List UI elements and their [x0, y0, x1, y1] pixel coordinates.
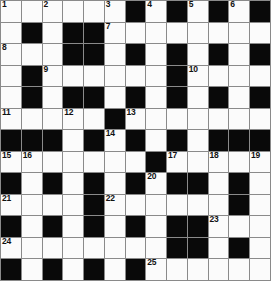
open-cell[interactable]: [229, 259, 250, 281]
open-cell[interactable]: [104, 44, 125, 66]
open-cell[interactable]: 24: [1, 237, 22, 259]
open-cell[interactable]: 17: [167, 151, 188, 173]
open-cell[interactable]: 19: [250, 151, 271, 173]
open-cell[interactable]: [167, 22, 188, 44]
open-cell[interactable]: [208, 108, 229, 130]
open-cell[interactable]: [229, 151, 250, 173]
open-cell[interactable]: [42, 44, 63, 66]
open-cell[interactable]: 7: [104, 22, 125, 44]
open-cell[interactable]: 11: [1, 108, 22, 130]
open-cell[interactable]: [146, 237, 167, 259]
open-cell[interactable]: 9: [42, 65, 63, 87]
open-cell[interactable]: [21, 194, 42, 216]
open-cell[interactable]: [229, 65, 250, 87]
open-cell[interactable]: [250, 259, 271, 281]
open-cell[interactable]: 13: [125, 108, 146, 130]
open-cell[interactable]: [1, 65, 22, 87]
open-cell[interactable]: [21, 44, 42, 66]
open-cell[interactable]: [84, 65, 105, 87]
open-cell[interactable]: [229, 22, 250, 44]
open-cell[interactable]: [63, 259, 84, 281]
open-cell[interactable]: [104, 259, 125, 281]
open-cell[interactable]: [63, 130, 84, 152]
open-cell[interactable]: [84, 151, 105, 173]
open-cell[interactable]: [208, 259, 229, 281]
open-cell[interactable]: [187, 87, 208, 109]
open-cell[interactable]: [63, 151, 84, 173]
open-cell[interactable]: 22: [104, 194, 125, 216]
open-cell[interactable]: [146, 108, 167, 130]
open-cell[interactable]: [1, 87, 22, 109]
open-cell[interactable]: 6: [229, 1, 250, 23]
open-cell[interactable]: [187, 130, 208, 152]
open-cell[interactable]: [146, 87, 167, 109]
open-cell[interactable]: [250, 194, 271, 216]
open-cell[interactable]: [167, 259, 188, 281]
open-cell[interactable]: [167, 194, 188, 216]
open-cell[interactable]: [187, 259, 208, 281]
open-cell[interactable]: [125, 65, 146, 87]
open-cell[interactable]: [42, 151, 63, 173]
open-cell[interactable]: 23: [208, 216, 229, 238]
open-cell[interactable]: [104, 237, 125, 259]
open-cell[interactable]: [229, 44, 250, 66]
open-cell[interactable]: [187, 44, 208, 66]
open-cell[interactable]: 4: [146, 1, 167, 23]
open-cell[interactable]: [63, 65, 84, 87]
open-cell[interactable]: [21, 237, 42, 259]
open-cell[interactable]: 1: [1, 1, 22, 23]
open-cell[interactable]: [250, 173, 271, 195]
open-cell[interactable]: 3: [104, 1, 125, 23]
open-cell[interactable]: [63, 237, 84, 259]
open-cell[interactable]: 14: [104, 130, 125, 152]
open-cell[interactable]: [208, 194, 229, 216]
open-cell[interactable]: 10: [187, 65, 208, 87]
open-cell[interactable]: [63, 216, 84, 238]
open-cell[interactable]: [125, 237, 146, 259]
open-cell[interactable]: [21, 216, 42, 238]
open-cell[interactable]: [146, 44, 167, 66]
open-cell[interactable]: [42, 237, 63, 259]
open-cell[interactable]: [63, 194, 84, 216]
open-cell[interactable]: [208, 22, 229, 44]
open-cell[interactable]: [208, 173, 229, 195]
open-cell[interactable]: [187, 108, 208, 130]
open-cell[interactable]: 21: [1, 194, 22, 216]
open-cell[interactable]: [1, 22, 22, 44]
open-cell[interactable]: 18: [208, 151, 229, 173]
open-cell[interactable]: [146, 65, 167, 87]
open-cell[interactable]: [187, 194, 208, 216]
open-cell[interactable]: [146, 22, 167, 44]
open-cell[interactable]: [208, 65, 229, 87]
open-cell[interactable]: [146, 194, 167, 216]
open-cell[interactable]: 20: [146, 173, 167, 195]
open-cell[interactable]: 25: [146, 259, 167, 281]
open-cell[interactable]: [104, 216, 125, 238]
open-cell[interactable]: [84, 108, 105, 130]
open-cell[interactable]: 8: [1, 44, 22, 66]
open-cell[interactable]: [125, 194, 146, 216]
open-cell[interactable]: [146, 130, 167, 152]
open-cell[interactable]: [21, 1, 42, 23]
open-cell[interactable]: [63, 173, 84, 195]
open-cell[interactable]: 5: [187, 1, 208, 23]
open-cell[interactable]: [229, 216, 250, 238]
open-cell[interactable]: [21, 173, 42, 195]
open-cell[interactable]: 12: [63, 108, 84, 130]
open-cell[interactable]: [63, 1, 84, 23]
open-cell[interactable]: [42, 108, 63, 130]
open-cell[interactable]: [229, 108, 250, 130]
open-cell[interactable]: [229, 87, 250, 109]
open-cell[interactable]: [250, 237, 271, 259]
open-cell[interactable]: 2: [42, 1, 63, 23]
open-cell[interactable]: [250, 108, 271, 130]
open-cell[interactable]: [104, 87, 125, 109]
open-cell[interactable]: [21, 108, 42, 130]
open-cell[interactable]: [42, 87, 63, 109]
open-cell[interactable]: [104, 173, 125, 195]
open-cell[interactable]: [42, 22, 63, 44]
open-cell[interactable]: 15: [1, 151, 22, 173]
open-cell[interactable]: [250, 22, 271, 44]
open-cell[interactable]: [42, 194, 63, 216]
open-cell[interactable]: [146, 216, 167, 238]
